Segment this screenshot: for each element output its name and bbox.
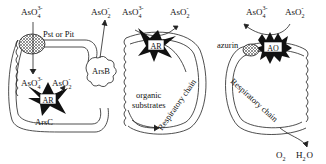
panel-dissimilatory-reduction: AR AsO43- AsO2- organic substrates Respi… [122,5,206,135]
azurin-label: azurin [217,40,239,50]
ar-label: AR [42,96,54,105]
water-label: H2O [296,150,314,162]
arsenic-metabolism-diagram: AR AsO43- Pst or Pit AsO2- AsO43- AsO2- … [0,0,326,164]
organic-label-line2: substrates [132,100,166,110]
arsenate-outside-label: AsO43- [21,5,43,19]
arsenate-inside-label: AsO43- [21,76,43,90]
panel-arsenite-oxidation: AO AsO43- AsO2- azurin Respiratory chain… [217,5,314,162]
arsenate-label-3: AsO43- [246,5,268,19]
oxygen-label: O2 [276,150,286,162]
arsenite-label-2: AsO2- [170,5,190,19]
pst-pit-transporter [19,34,45,54]
panel-detoxification: AR AsO43- Pst or Pit AsO2- AsO43- AsO2- … [9,5,117,133]
azurin-protein [243,44,259,56]
ao-label: AO [267,44,279,53]
arsenate-label-2: AsO43- [122,5,144,19]
organic-label-line1: organic [136,90,162,100]
arsenite-oxidase-enzyme: AO [256,32,292,64]
arsc-label: ArsC [35,117,53,127]
arsenite-label-3: AsO2- [285,5,305,19]
pst-pit-label: Pst or Pit [43,29,75,39]
arsenite-inside-label: AsO2- [52,76,72,90]
ar-label-2: AR [150,42,162,51]
respiratory-chain-label-3: Respiratory chain [229,76,281,124]
arsenite-outside-label: AsO2- [91,5,111,19]
arsb-label: ArsB [92,66,110,76]
